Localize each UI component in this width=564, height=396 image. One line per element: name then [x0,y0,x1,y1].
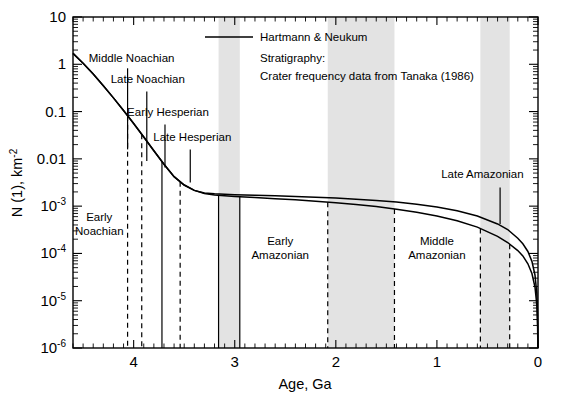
x-tick-label-0: 0 [534,353,542,370]
crater-chronology-figure: 43210 1010.10.0110-310-410-510-6 EarlyNo… [0,0,564,396]
epoch-label-middle-amazonian: MiddleAmazonian [408,235,466,261]
period-boundaries-group [128,116,510,348]
data-curves-group [73,53,538,348]
epoch-label-early-noachian: EarlyNoachian [75,211,124,237]
x-tick-label-3: 3 [231,353,239,370]
y-tick-label-10-4: 10-4 [40,243,66,261]
early-amazonian-band [328,18,395,348]
stratigraphy-note-line-1: Stratigraphy: [260,52,325,64]
x-tick-label-4: 4 [129,353,137,370]
late-amazonian-band [480,18,509,348]
axis-ticks-group [73,17,538,348]
curve-hartmann [73,53,538,348]
epoch-label-early-hesperian: Early Hesperian [127,106,209,118]
late-hesperian-band [219,18,240,348]
x-tick-label-1: 1 [433,353,441,370]
y-tick-label-10-6: 10-6 [40,338,66,356]
epoch-label-late-amazonian: Late Amazonian [441,168,523,180]
epoch-label-late-hesperian: Late Hesperian [153,131,231,143]
y-tick-label-0.1: 0.1 [45,103,66,120]
epoch-label-early-amazonian: EarlyAmazonian [251,235,309,261]
y-tick-labels-group: 1010.10.0110-310-410-510-6 [37,8,67,356]
y-axis-title: N (1), km-2 [8,148,25,217]
x-tick-labels-group: 43210 [129,353,542,370]
chart-canvas: 43210 1010.10.0110-310-410-510-6 EarlyNo… [0,0,564,396]
shaded-bands-group [219,18,510,348]
y-tick-label-0.01: 0.01 [37,150,66,167]
x-axis-title: Age, Ga [278,376,332,392]
plot-frame [73,17,538,348]
stratigraphy-note-line-2: Crater frequency data from Tanaka (1986) [260,70,474,82]
y-tick-label-1: 1 [58,55,66,72]
y-axis-title-text: N (1), km-2 [8,148,25,217]
epoch-label-middle-noachian: Middle Noachian [89,52,175,64]
y-tick-label-10-3: 10-3 [40,196,66,214]
plot-frame-rect [73,17,538,348]
epoch-label-late-noachian: Late Noachian [111,73,185,85]
x-tick-label-2: 2 [332,353,340,370]
legend-series-label: Hartmann & Neukum [260,31,367,43]
y-tick-label-10: 10 [49,8,66,25]
y-tick-label-10-5: 10-5 [40,291,66,309]
